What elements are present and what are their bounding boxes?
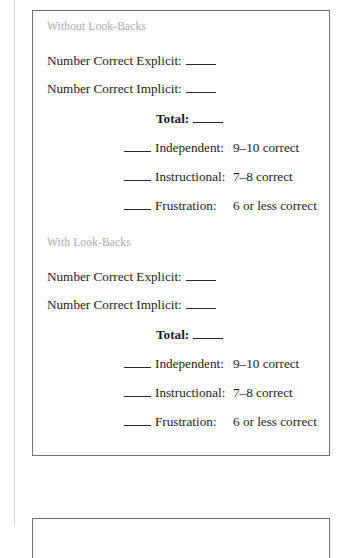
level-line-instructional: Instructional: 7–8 correct bbox=[33, 385, 329, 401]
count-label-explicit: Number Correct Explicit: bbox=[47, 269, 182, 284]
section-without-look-backs: Without Look-Backs Number Correct Explic… bbox=[33, 19, 329, 214]
count-blank-explicit[interactable] bbox=[186, 53, 216, 65]
level-blank-rule-independent[interactable] bbox=[124, 356, 151, 368]
level-value-instructional: 7–8 correct bbox=[233, 169, 293, 185]
level-line-frustration: Frustration: 6 or less correct bbox=[33, 198, 329, 214]
level-value-instructional: 7–8 correct bbox=[233, 385, 293, 401]
level-label-independent: Independent: bbox=[155, 140, 233, 156]
level-blank-frustration[interactable] bbox=[124, 198, 155, 214]
level-line-instructional: Instructional: 7–8 correct bbox=[33, 169, 329, 185]
count-blank-implicit[interactable] bbox=[186, 81, 216, 93]
level-blank-rule-frustration[interactable] bbox=[124, 414, 151, 426]
count-line-explicit: Number Correct Explicit: bbox=[33, 269, 329, 285]
level-line-frustration: Frustration: 6 or less correct bbox=[33, 414, 329, 430]
count-blank-explicit[interactable] bbox=[186, 269, 216, 281]
section-title: With Look-Backs bbox=[33, 235, 329, 250]
total-label: Total: bbox=[156, 327, 189, 342]
level-blank-rule-instructional[interactable] bbox=[124, 385, 151, 397]
count-line-explicit: Number Correct Explicit: bbox=[33, 53, 329, 69]
level-label-instructional: Instructional: bbox=[155, 385, 233, 401]
level-blank-rule-independent[interactable] bbox=[124, 140, 151, 152]
level-blank-rule-instructional[interactable] bbox=[124, 169, 151, 181]
level-blank-independent[interactable] bbox=[124, 356, 155, 372]
level-blank-frustration[interactable] bbox=[124, 414, 155, 430]
count-line-implicit: Number Correct Implicit: bbox=[33, 297, 329, 313]
count-line-implicit: Number Correct Implicit: bbox=[33, 81, 329, 97]
level-value-independent: 9–10 correct bbox=[233, 140, 299, 156]
total-blank[interactable] bbox=[193, 327, 223, 339]
level-label-frustration: Frustration: bbox=[155, 414, 233, 430]
level-value-independent: 9–10 correct bbox=[233, 356, 299, 372]
count-label-implicit: Number Correct Implicit: bbox=[47, 81, 182, 96]
level-blank-instructional[interactable] bbox=[124, 169, 155, 185]
total-label: Total: bbox=[156, 111, 189, 126]
level-line-independent: Independent: 9–10 correct bbox=[33, 356, 329, 372]
level-blank-independent[interactable] bbox=[124, 140, 155, 156]
level-line-independent: Independent: 9–10 correct bbox=[33, 140, 329, 156]
section-title: Without Look-Backs bbox=[33, 19, 329, 34]
level-value-frustration: 6 or less correct bbox=[233, 198, 317, 214]
total-line: Total: bbox=[33, 111, 329, 127]
next-worksheet-box-partial bbox=[32, 518, 330, 558]
count-label-implicit: Number Correct Implicit: bbox=[47, 297, 182, 312]
level-blank-instructional[interactable] bbox=[124, 385, 155, 401]
level-blank-rule-frustration[interactable] bbox=[124, 198, 151, 210]
section-with-look-backs: With Look-Backs Number Correct Explicit:… bbox=[33, 235, 329, 430]
total-blank[interactable] bbox=[193, 111, 223, 123]
level-label-independent: Independent: bbox=[155, 356, 233, 372]
worksheet-box: Without Look-Backs Number Correct Explic… bbox=[32, 10, 330, 456]
level-label-instructional: Instructional: bbox=[155, 169, 233, 185]
level-value-frustration: 6 or less correct bbox=[233, 414, 317, 430]
count-blank-implicit[interactable] bbox=[186, 297, 216, 309]
total-line: Total: bbox=[33, 327, 329, 343]
level-label-frustration: Frustration: bbox=[155, 198, 233, 214]
page-gutter-rule bbox=[14, 0, 15, 526]
count-label-explicit: Number Correct Explicit: bbox=[47, 53, 182, 68]
